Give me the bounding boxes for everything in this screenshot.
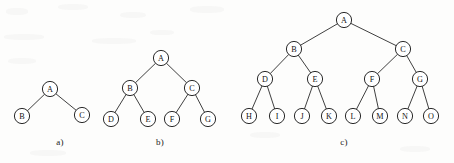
tree-edge-c-f <box>176 94 188 112</box>
tree-node-b[interactable]: B <box>286 41 301 56</box>
node-label: E <box>312 75 317 84</box>
tree-node-n[interactable]: N <box>397 108 412 123</box>
nodes-layer: ABCABCDEFGABCDEFGHIJKLMNO <box>14 12 438 126</box>
node-label: F <box>170 115 175 124</box>
node-label: F <box>370 75 375 84</box>
tree-node-g[interactable]: G <box>200 111 215 126</box>
tree-edge-a-c <box>166 63 186 82</box>
tree-edge-b-e <box>134 95 144 113</box>
tree-edge-a-b <box>27 94 44 110</box>
tree-node-e[interactable]: E <box>140 111 155 126</box>
node-label: K <box>326 112 332 121</box>
tree-edge-b-d <box>270 54 288 73</box>
tree-node-m[interactable]: M <box>372 108 387 123</box>
node-label: C <box>400 45 406 54</box>
tree-edge-f-l <box>356 86 368 109</box>
node-label: A <box>47 85 53 94</box>
tree-edge-a-c <box>56 94 76 110</box>
tree-node-a[interactable]: A <box>336 12 351 27</box>
node-label: D <box>262 75 268 84</box>
figure-caption-c: c) <box>340 137 347 147</box>
tree-edge-e-j <box>305 86 313 109</box>
tree-edge-c-f <box>377 54 397 73</box>
tree-node-d[interactable]: D <box>103 111 118 126</box>
tree-edge-f-m <box>374 86 379 108</box>
tree-edge-a-b <box>301 24 338 45</box>
tree-node-b[interactable]: B <box>122 80 137 95</box>
tree-node-g[interactable]: G <box>412 71 427 86</box>
tree-edge-c-g <box>195 95 204 113</box>
tree-node-o[interactable]: O <box>423 108 438 123</box>
figure-caption-a: a) <box>56 137 63 147</box>
tree-edge-c-g <box>407 56 417 73</box>
tree-edge-g-n <box>408 86 417 109</box>
tree-node-c[interactable]: C <box>395 41 410 56</box>
tree-edge-a-c <box>351 23 396 45</box>
node-label: D <box>108 115 114 124</box>
tree-node-i[interactable]: I <box>269 108 284 123</box>
tree-node-f[interactable]: F <box>364 71 379 86</box>
tree-node-a[interactable]: A <box>153 50 168 65</box>
node-label: B <box>127 84 133 93</box>
node-label: G <box>205 115 211 124</box>
figure-caption-b: b) <box>156 137 164 147</box>
node-label: H <box>246 112 252 121</box>
tree-node-a[interactable]: A <box>42 81 57 96</box>
captions-layer: a)b)c) <box>56 137 347 147</box>
tree-node-d[interactable]: D <box>257 71 272 86</box>
tree-edge-b-d <box>115 94 126 112</box>
tree-edge-g-o <box>422 86 429 108</box>
node-label: C <box>79 111 85 120</box>
node-label: G <box>417 75 423 84</box>
node-label: L <box>350 112 355 121</box>
node-label: M <box>376 112 384 121</box>
node-label: E <box>145 115 150 124</box>
tree-edge-a-b <box>135 63 155 82</box>
node-label: C <box>189 84 195 93</box>
tree-node-c[interactable]: C <box>184 80 199 95</box>
edges-layer <box>27 23 428 112</box>
node-label: I <box>276 112 279 121</box>
tree-node-b[interactable]: B <box>14 108 29 123</box>
tree-node-h[interactable]: H <box>241 108 256 123</box>
tree-edge-d-h <box>252 86 262 109</box>
node-label: B <box>291 45 297 54</box>
tree-node-k[interactable]: K <box>321 108 336 123</box>
node-label: N <box>402 112 408 121</box>
node-label: A <box>341 16 347 25</box>
tree-edge-b-e <box>298 55 310 73</box>
tree-node-l[interactable]: L <box>345 108 360 123</box>
node-label: A <box>158 54 164 63</box>
binary-tree-figure: ABCABCDEFGABCDEFGHIJKLMNO a)b)c) <box>0 0 454 163</box>
tree-node-e[interactable]: E <box>307 71 322 86</box>
tree-node-f[interactable]: F <box>164 111 179 126</box>
tree-node-j[interactable]: J <box>294 108 309 123</box>
node-label: B <box>19 112 25 121</box>
tree-edge-e-k <box>318 86 327 109</box>
tree-edge-d-i <box>267 86 274 109</box>
tree-diagram-canvas: ABCABCDEFGABCDEFGHIJKLMNO a)b)c) <box>0 0 454 163</box>
node-label: O <box>428 112 434 121</box>
tree-node-c[interactable]: C <box>74 107 89 122</box>
